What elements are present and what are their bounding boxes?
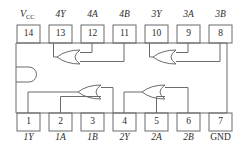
pin-label-6: 2B [177,132,200,143]
pin-label-11: 4B [113,9,136,20]
ic-pinout-diagram: VCC 4Y 4A 4B 3Y 3A 3B 14 13 12 11 10 9 8… [0,0,243,146]
pin-number-5: 5 [145,116,168,127]
pin-number-10: 10 [145,28,168,39]
pin-label-2: 1A [49,132,72,143]
pin-label-13: 4Y [49,9,72,20]
pin-label-10: 3Y [145,9,168,20]
pin-label-8: 3B [209,9,232,20]
gate-4-input-a-wire [80,43,92,53]
pin-number-6: 6 [177,116,200,127]
ic-body-outline [16,43,227,113]
gate-4-output-wire [54,43,58,57]
gate-2-input-a-wire [165,88,188,114]
pin-label-4: 2Y [113,132,136,143]
pin-1-notch-icon [16,67,37,82]
pin-label-5: 2A [145,132,168,143]
gate-3-input-a-wire [176,43,188,53]
gate-1-input-a-wire [101,88,113,114]
pin-number-7: 7 [209,116,232,127]
pin-label-3: 1B [81,132,104,143]
pin-label-14: VCC [20,8,35,20]
pin-label-1: 1Y [17,132,40,143]
pin-number-14: 14 [17,28,40,39]
pin-number-9: 9 [177,28,200,39]
pin-number-1: 1 [17,116,40,127]
gate-4-or-shape [57,50,80,64]
pin-number-12: 12 [81,28,104,39]
pin-label-9: 3A [177,9,200,20]
pin-number-4: 4 [113,116,136,127]
pin-number-8: 8 [209,28,232,39]
gate-1-output-wire [28,92,78,113]
pin-label-12: 4A [81,9,104,20]
gate-3-output-wire [150,43,154,57]
gate-2-output-wire [124,92,142,113]
pin-label-7: GND [207,132,234,143]
pin-number-13: 13 [49,28,72,39]
pin-number-3: 3 [81,116,104,127]
gate-3-or-shape [153,50,176,64]
pin-number-2: 2 [49,116,72,127]
pin-number-11: 11 [113,28,136,39]
